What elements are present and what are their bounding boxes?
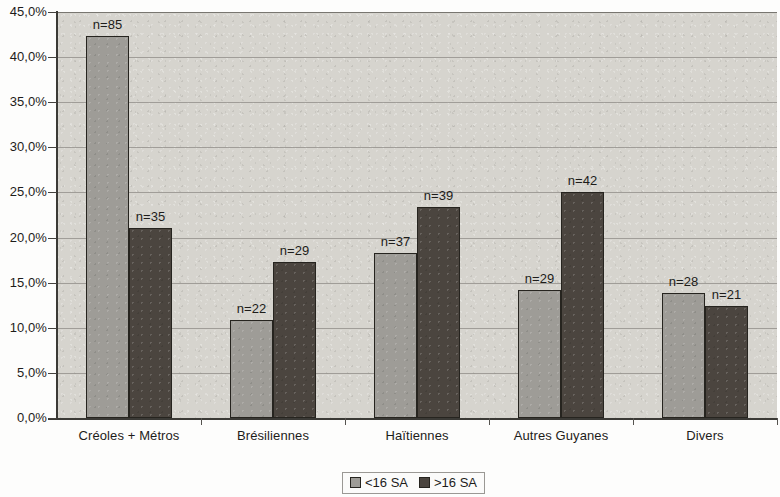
bar-gt16sa <box>705 306 748 418</box>
bar-lt16sa <box>230 320 273 418</box>
y-axis-tick <box>48 328 57 329</box>
bar-texture <box>130 229 171 417</box>
y-axis-tick <box>48 418 57 419</box>
x-axis-category-label: Autres Guyanes <box>489 428 633 443</box>
x-axis-separator-tick <box>201 418 202 425</box>
bar-chart: 45,0%40,0%35,0%30,0%25,0%20,0%15,0%10,0%… <box>0 0 780 497</box>
bar-texture <box>706 307 747 417</box>
bar-count-label: n=42 <box>551 173 614 188</box>
bar-gt16sa <box>561 192 604 418</box>
y-axis-tick-label: 35,0% <box>1 94 47 109</box>
bar-texture <box>274 263 315 417</box>
y-axis-tick-label: 25,0% <box>1 184 47 199</box>
x-axis-line <box>48 418 777 420</box>
y-axis-tick-label: 0,0% <box>1 410 47 425</box>
bar-lt16sa <box>662 293 705 418</box>
gridline <box>57 147 777 148</box>
y-axis-line <box>56 11 58 420</box>
bar-lt16sa <box>86 36 129 418</box>
bar-texture <box>231 321 272 417</box>
gridline <box>57 57 777 58</box>
legend-swatch-gt16-icon <box>419 477 430 488</box>
legend-label-gt16: >16 SA <box>434 475 477 490</box>
bar-texture <box>663 294 704 417</box>
y-axis-tick-label: 45,0% <box>1 4 47 19</box>
bar-texture <box>519 291 560 417</box>
bar-texture <box>375 254 416 417</box>
bar-count-label: n=35 <box>119 209 182 224</box>
x-axis-separator-tick <box>777 418 778 425</box>
bar-count-label: n=39 <box>407 188 470 203</box>
y-axis-tick <box>48 102 57 103</box>
chart-legend: <16 SA >16 SA <box>342 472 485 494</box>
y-axis-tick-label: 20,0% <box>1 230 47 245</box>
bar-count-label: n=22 <box>220 301 283 316</box>
y-axis-labels: 45,0%40,0%35,0%30,0%25,0%20,0%15,0%10,0%… <box>0 0 47 497</box>
legend-label-lt16: <16 SA <box>365 475 408 490</box>
bar-count-label: n=85 <box>76 17 139 32</box>
y-axis-tick-label: 5,0% <box>1 365 47 380</box>
y-axis-tick <box>48 283 57 284</box>
y-axis-tick <box>48 238 57 239</box>
x-axis-separator-tick <box>489 418 490 425</box>
bar-count-label: n=29 <box>263 243 326 258</box>
bar-count-label: n=21 <box>695 287 758 302</box>
x-axis-separator-tick <box>633 418 634 425</box>
x-axis-separator-tick <box>345 418 346 425</box>
x-axis-category-label: Brésiliennes <box>201 428 345 443</box>
bar-count-label: n=29 <box>508 271 571 286</box>
y-axis-tick <box>48 147 57 148</box>
y-axis-tick-label: 15,0% <box>1 275 47 290</box>
x-axis-category-label: Haïtiennes <box>345 428 489 443</box>
y-axis-tick-label: 30,0% <box>1 139 47 154</box>
bar-lt16sa <box>518 290 561 418</box>
y-axis-tick <box>48 12 57 13</box>
x-axis-category-label: Créoles + Métros <box>57 428 201 443</box>
legend-swatch-lt16-icon <box>350 477 361 488</box>
y-axis-tick-label: 40,0% <box>1 49 47 64</box>
x-axis-category-label: Divers <box>633 428 777 443</box>
y-axis-tick <box>48 57 57 58</box>
legend-item-lt16: <16 SA <box>350 475 408 490</box>
legend-item-gt16: >16 SA <box>419 475 477 490</box>
bar-texture <box>562 193 603 417</box>
gridline <box>57 102 777 103</box>
bar-gt16sa <box>129 228 172 418</box>
bar-gt16sa <box>273 262 316 418</box>
bar-lt16sa <box>374 253 417 418</box>
bar-count-label: n=37 <box>364 234 427 249</box>
gridline <box>57 12 777 13</box>
y-axis-tick-label: 10,0% <box>1 320 47 335</box>
y-axis-tick <box>48 373 57 374</box>
y-axis-tick <box>48 192 57 193</box>
bar-texture <box>87 37 128 417</box>
